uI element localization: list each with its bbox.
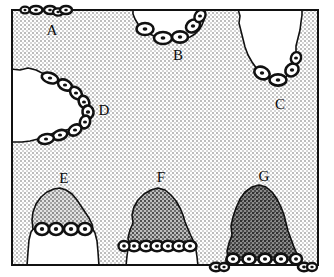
region-label-g: G <box>258 168 269 184</box>
cell <box>60 6 72 14</box>
region-label-f: F <box>157 169 166 185</box>
region-label-e: E <box>59 170 68 186</box>
cell <box>172 31 188 42</box>
cell <box>275 254 288 265</box>
region-f-cells <box>119 241 197 251</box>
cell <box>119 241 130 251</box>
region-label-d: D <box>98 102 109 118</box>
region-label-a: A <box>46 22 57 38</box>
cell <box>219 263 229 271</box>
figure-root: A B C D E F G <box>0 0 334 277</box>
frame-interior <box>11 8 317 266</box>
cell <box>78 223 92 235</box>
cell <box>243 254 256 265</box>
cell <box>227 254 240 265</box>
cell <box>259 254 272 265</box>
cell <box>137 23 154 35</box>
cell <box>21 7 30 14</box>
cell <box>270 74 287 85</box>
cell <box>154 32 172 44</box>
cell <box>64 223 78 235</box>
cell <box>35 223 49 235</box>
region-label-b: B <box>173 47 183 63</box>
region-g-cells <box>227 254 303 265</box>
cell <box>30 6 43 14</box>
figure-canvas: A B C D E F G <box>0 0 334 277</box>
cell <box>184 241 197 251</box>
cell <box>49 223 63 235</box>
region-label-c: C <box>275 96 285 112</box>
cell <box>307 263 317 271</box>
